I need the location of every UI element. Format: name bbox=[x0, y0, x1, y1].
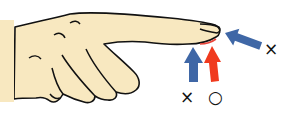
wrong-mark-underside: × bbox=[180, 89, 194, 106]
correct-mark-pad: ○ bbox=[208, 89, 223, 106]
wrong-mark-fingertip: × bbox=[264, 41, 278, 58]
finger-touch-diagram: × × ○ bbox=[0, 0, 297, 123]
pad-arrow bbox=[204, 46, 221, 82]
hand-illustration bbox=[0, 0, 297, 123]
fingertip-arrow bbox=[222, 25, 264, 55]
underside-arrow bbox=[184, 47, 203, 82]
